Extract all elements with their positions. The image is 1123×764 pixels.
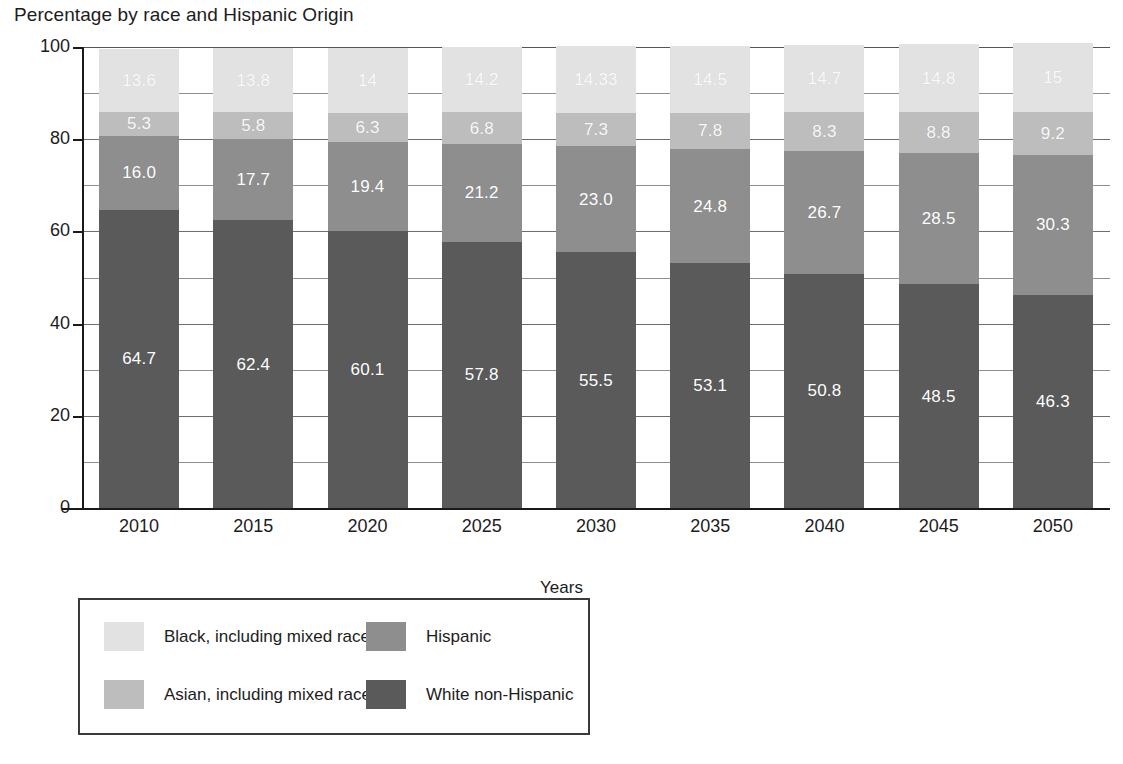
bar-value-label: 6.3 bbox=[355, 119, 379, 136]
legend-swatch bbox=[104, 622, 144, 651]
x-tick-label-2025: 2025 bbox=[425, 516, 539, 537]
bar-value-label: 26.7 bbox=[807, 204, 841, 221]
bar-segment[interactable]: 5.8 bbox=[213, 112, 293, 139]
bar-group-2030[interactable]: 14.337.323.055.5 bbox=[556, 47, 636, 508]
bar-value-label: 48.5 bbox=[922, 388, 956, 405]
legend-item[interactable]: Hispanic bbox=[366, 622, 491, 651]
bar-group-2010[interactable]: 13.65.316.064.7 bbox=[99, 47, 179, 508]
bar-segment[interactable]: 16.0 bbox=[99, 136, 179, 210]
y-tick-label-20: 20 bbox=[10, 405, 70, 426]
bar-segment[interactable]: 14.5 bbox=[670, 46, 750, 113]
bar-segment[interactable]: 62.4 bbox=[213, 220, 293, 508]
bar-value-label: 28.5 bbox=[922, 210, 956, 227]
bar-stack: 146.319.460.1 bbox=[328, 48, 408, 508]
bar-segment[interactable]: 6.3 bbox=[328, 113, 408, 142]
legend-label: Hispanic bbox=[426, 627, 491, 647]
bar-stack: 14.26.821.257.8 bbox=[442, 47, 522, 508]
legend-swatch bbox=[366, 680, 406, 709]
bar-segment[interactable]: 8.3 bbox=[784, 112, 864, 150]
plot-wrapper: 020406080100 13.65.316.064.713.85.817.76… bbox=[0, 38, 1123, 518]
bar-segment[interactable]: 55.5 bbox=[556, 252, 636, 508]
bar-stack: 13.65.316.064.7 bbox=[99, 49, 179, 508]
bar-group-2045[interactable]: 14.88.828.548.5 bbox=[899, 47, 979, 508]
x-tick-label-2015: 2015 bbox=[196, 516, 310, 537]
bar-group-2040[interactable]: 14.78.326.750.8 bbox=[784, 47, 864, 508]
bar-value-label: 13.6 bbox=[122, 72, 156, 89]
bar-value-label: 9.2 bbox=[1041, 125, 1065, 142]
bar-segment[interactable]: 21.2 bbox=[442, 144, 522, 242]
bar-segment[interactable]: 5.3 bbox=[99, 112, 179, 136]
x-tick-label-2050: 2050 bbox=[996, 516, 1110, 537]
bar-segment[interactable]: 64.7 bbox=[99, 210, 179, 508]
legend-item[interactable]: Black, including mixed race bbox=[104, 622, 370, 651]
bar-value-label: 57.8 bbox=[465, 366, 499, 383]
bar-value-label: 64.7 bbox=[122, 350, 156, 367]
bar-group-2015[interactable]: 13.85.817.762.4 bbox=[213, 47, 293, 508]
x-axis-title: Years bbox=[0, 578, 1123, 598]
bar-segment[interactable]: 14.33 bbox=[556, 46, 636, 112]
bar-stack: 159.230.346.3 bbox=[1013, 43, 1093, 508]
bar-value-label: 15 bbox=[1043, 69, 1062, 86]
bar-segment[interactable]: 30.3 bbox=[1013, 155, 1093, 295]
bar-stack: 13.85.817.762.4 bbox=[213, 48, 293, 508]
bar-stack: 14.88.828.548.5 bbox=[899, 44, 979, 508]
bar-segment[interactable]: 15 bbox=[1013, 43, 1093, 112]
bar-value-label: 14.33 bbox=[574, 71, 618, 88]
bar-value-label: 17.7 bbox=[236, 171, 270, 188]
bar-segment[interactable]: 17.7 bbox=[213, 139, 293, 221]
bar-value-label: 13.8 bbox=[236, 72, 270, 89]
bar-segment[interactable]: 57.8 bbox=[442, 242, 522, 508]
bar-group-2025[interactable]: 14.26.821.257.8 bbox=[442, 47, 522, 508]
bar-segment[interactable]: 19.4 bbox=[328, 142, 408, 231]
bar-segment[interactable]: 28.5 bbox=[899, 153, 979, 284]
bar-segment[interactable]: 26.7 bbox=[784, 151, 864, 274]
bar-segment[interactable]: 7.8 bbox=[670, 113, 750, 149]
y-tick-label-100: 100 bbox=[10, 36, 70, 57]
x-axis-line bbox=[62, 508, 1110, 510]
legend-item[interactable]: Asian, including mixed race bbox=[104, 680, 371, 709]
bar-segment[interactable]: 23.0 bbox=[556, 146, 636, 252]
bar-group-2035[interactable]: 14.57.824.853.1 bbox=[670, 47, 750, 508]
bar-group-2020[interactable]: 146.319.460.1 bbox=[328, 47, 408, 508]
bar-value-label: 14.7 bbox=[807, 70, 841, 87]
legend-label: Black, including mixed race bbox=[164, 627, 370, 647]
bar-segment[interactable]: 14.2 bbox=[442, 47, 522, 112]
bar-segment[interactable]: 6.8 bbox=[442, 112, 522, 143]
x-tick-label-2020: 2020 bbox=[310, 516, 424, 537]
bar-segment[interactable]: 14.7 bbox=[784, 45, 864, 113]
bar-segment[interactable]: 7.3 bbox=[556, 113, 636, 147]
bar-segment[interactable]: 9.2 bbox=[1013, 112, 1093, 154]
bar-segment[interactable]: 8.8 bbox=[899, 112, 979, 153]
legend-swatch bbox=[366, 622, 406, 651]
chart-title: Percentage by race and Hispanic Origin bbox=[14, 4, 354, 26]
bar-segment[interactable]: 14.8 bbox=[899, 44, 979, 112]
bar-value-label: 14.2 bbox=[465, 71, 499, 88]
legend-item[interactable]: White non-Hispanic bbox=[366, 680, 573, 709]
bar-segment[interactable]: 48.5 bbox=[899, 284, 979, 508]
bar-value-label: 46.3 bbox=[1036, 393, 1070, 410]
bar-segment[interactable]: 50.8 bbox=[784, 274, 864, 508]
bar-value-label: 24.8 bbox=[693, 198, 727, 215]
bar-segment[interactable]: 14 bbox=[328, 48, 408, 113]
bar-segment[interactable]: 13.6 bbox=[99, 49, 179, 112]
bar-stack: 14.57.824.853.1 bbox=[670, 46, 750, 508]
y-tick-label-60: 60 bbox=[10, 220, 70, 241]
bar-value-label: 7.8 bbox=[698, 122, 722, 139]
bar-segment[interactable]: 13.8 bbox=[213, 48, 293, 112]
bar-value-label: 62.4 bbox=[236, 356, 270, 373]
y-tick-label-80: 80 bbox=[10, 128, 70, 149]
bar-value-label: 21.2 bbox=[465, 184, 499, 201]
bar-segment[interactable]: 24.8 bbox=[670, 149, 750, 263]
bar-value-label: 14.8 bbox=[922, 70, 956, 87]
bar-value-label: 8.3 bbox=[812, 123, 836, 140]
chart-legend: Black, including mixed raceHispanicAsian… bbox=[78, 598, 590, 735]
bars-layer: 13.65.316.064.713.85.817.762.4146.319.46… bbox=[82, 47, 1110, 508]
bar-segment[interactable]: 46.3 bbox=[1013, 295, 1093, 508]
bar-segment[interactable]: 53.1 bbox=[670, 263, 750, 508]
bar-group-2050[interactable]: 159.230.346.3 bbox=[1013, 47, 1093, 508]
bar-value-label: 14.5 bbox=[693, 71, 727, 88]
bar-value-label: 6.8 bbox=[470, 120, 494, 137]
bar-segment[interactable]: 60.1 bbox=[328, 231, 408, 508]
y-tick-label-0: 0 bbox=[10, 497, 70, 518]
bar-value-label: 55.5 bbox=[579, 372, 613, 389]
